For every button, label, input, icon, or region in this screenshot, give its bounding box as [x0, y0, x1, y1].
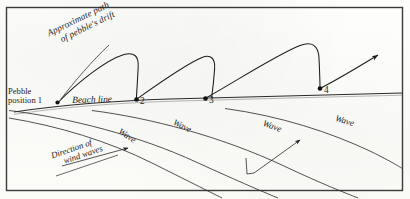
pebble-drift-diagram: Approximate path of pebble's drift Pebbl… [0, 0, 410, 199]
marker-label-4: 4 [324, 85, 329, 95]
marker-dot-3 [203, 96, 208, 101]
wave-direction-arrow [246, 140, 300, 174]
pebble-position-line2: position 1 [8, 96, 42, 105]
marker-dot-4 [318, 86, 323, 91]
marker-label-3: 3 [209, 95, 214, 105]
caption-leader-line [61, 45, 109, 99]
marker-dot-2 [134, 97, 139, 102]
drift-hop-2 [138, 56, 215, 98]
marker-label-2: 2 [140, 96, 145, 106]
wave-crest-4 [225, 109, 403, 170]
wave-crest-2 [9, 111, 278, 199]
pebble-position-label: Pebble position 1 [8, 87, 42, 105]
beach-line-label: Beach line [72, 95, 112, 106]
marker-dot-1 [55, 100, 59, 104]
drift-hop-3 [206, 44, 320, 98]
drift-exit-arrow [321, 55, 378, 88]
wave-crest-3 [92, 111, 358, 199]
